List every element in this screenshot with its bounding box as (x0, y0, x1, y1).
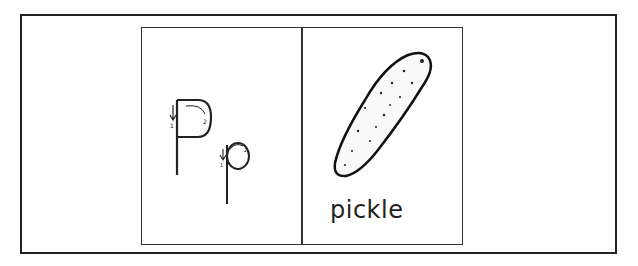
letter-p-stroke-guide-icon: 1 2 1 2 (141, 27, 301, 245)
pickle-icon (330, 45, 440, 185)
svg-text:2: 2 (203, 118, 207, 125)
card-divider (301, 27, 303, 245)
svg-text:1: 1 (170, 122, 174, 129)
picture-word-label: pickle (330, 196, 403, 224)
svg-text:1: 1 (220, 162, 223, 168)
svg-text:2: 2 (244, 147, 247, 153)
